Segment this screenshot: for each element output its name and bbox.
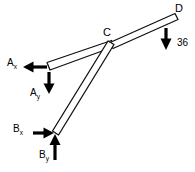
force-label-ay-base: A xyxy=(30,87,37,98)
force-arrow-bx xyxy=(33,128,54,139)
free-body-diagram: C D Ax Ay Bx By 36 xyxy=(0,0,195,172)
force-label-by: By xyxy=(39,150,49,163)
force-label-ay: Ay xyxy=(30,88,40,101)
joint-label-c: C xyxy=(103,27,111,38)
force-label-by-subscript: y xyxy=(46,155,49,162)
force-label-ax: Ax xyxy=(7,58,17,71)
force-label-ax-subscript: x xyxy=(14,63,17,70)
load-magnitude-label: 36 xyxy=(177,38,188,48)
force-label-bx-base: B xyxy=(13,123,20,134)
force-label-ax-base: A xyxy=(7,57,14,68)
joint-label-d: D xyxy=(175,3,183,14)
force-label-bx: Bx xyxy=(13,124,23,137)
force-label-ay-subscript: y xyxy=(37,93,40,100)
force-arrow-by xyxy=(50,134,61,160)
force-label-by-base: B xyxy=(39,149,46,160)
force-arrow-ay xyxy=(44,72,55,94)
force-label-bx-subscript: x xyxy=(20,129,23,136)
force-arrow-load-d xyxy=(161,28,172,50)
diagram-canvas xyxy=(0,0,195,172)
force-arrow-ax xyxy=(23,62,47,73)
